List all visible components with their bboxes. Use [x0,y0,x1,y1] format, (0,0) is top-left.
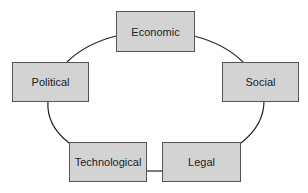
node-label: Social [246,76,276,88]
node-label: Legal [188,156,215,168]
node-legal: Legal [162,142,241,182]
node-label: Political [32,76,70,88]
node-social: Social [222,62,299,102]
node-political: Political [12,62,89,102]
node-technological: Technological [69,142,147,182]
node-economic: Economic [116,11,195,52]
node-label: Technological [75,156,142,168]
node-label: Economic [131,26,179,38]
